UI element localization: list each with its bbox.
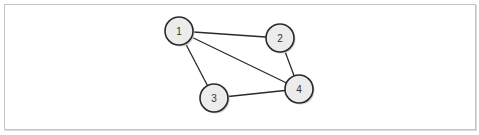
nodes-group: 1234 (165, 17, 315, 114)
node-3: 3 (200, 84, 230, 114)
node-2: 2 (266, 24, 296, 54)
graph-canvas: 1234 (0, 0, 479, 135)
node-label: 4 (296, 84, 302, 95)
node-label: 3 (211, 93, 217, 104)
node-4: 4 (285, 75, 315, 105)
node-label: 2 (277, 33, 283, 44)
node-label: 1 (176, 26, 182, 37)
node-1: 1 (165, 17, 195, 47)
